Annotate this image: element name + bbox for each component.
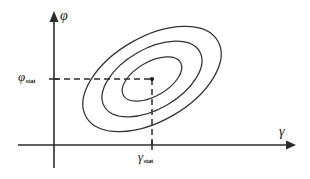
y-axis-arrowhead xyxy=(50,11,59,22)
gamma-subscript: stat xyxy=(143,157,153,164)
center-point-marker xyxy=(150,77,154,81)
x-axis-label: γ xyxy=(279,125,285,139)
y-axis-tick-label-phi-stat: φstat xyxy=(18,70,35,83)
y-axis-label: φ xyxy=(60,9,68,23)
x-axis-tick-label-gamma-stat: γstat xyxy=(138,150,153,163)
phi-symbol: φ xyxy=(18,69,25,84)
figure-container: φ γ φstat γstat xyxy=(0,0,310,179)
phi-subscript: stat xyxy=(26,77,36,84)
contour-plot-svg xyxy=(0,0,310,179)
x-axis-arrowhead xyxy=(286,141,296,150)
